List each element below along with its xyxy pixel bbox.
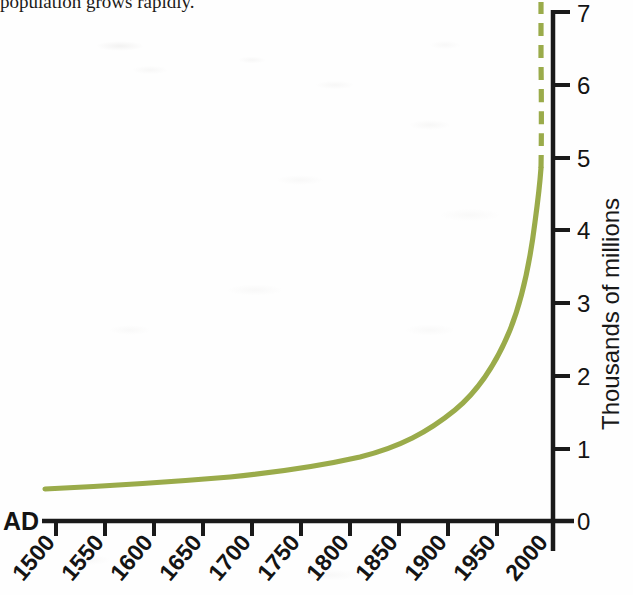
- y-tick-label: 1: [577, 436, 590, 463]
- population-growth-figure: population grows rapidly. AD 1500: [0, 0, 633, 595]
- y-tick-label: 2: [577, 363, 590, 390]
- y-axis-title: Thousands of millions: [597, 198, 624, 430]
- x-axis-tick-labels: 1500 1550 1600 1650 1700 1750 1800 1850 …: [7, 530, 553, 586]
- x-tick-label: 1550: [56, 530, 109, 586]
- y-axis: [553, 10, 570, 551]
- y-tick-label: 3: [577, 290, 590, 317]
- y-axis-tick-labels: 0 1 2 3 4 5 6 7: [577, 0, 590, 535]
- x-tick-label: 1800: [301, 530, 354, 586]
- x-tick-label: 1700: [203, 530, 256, 586]
- x-tick-label: 1650: [154, 530, 207, 586]
- y-tick-label: 4: [577, 217, 590, 244]
- x-tick-label: 1600: [105, 530, 158, 586]
- y-tick-label: 5: [577, 145, 590, 172]
- y-axis-ticks: [553, 12, 570, 449]
- x-tick-label: 1850: [350, 530, 403, 586]
- y-tick-label: 0: [577, 508, 590, 535]
- population-chart-plot: AD 1500 1550 1600 1650 1700 1750 1800 18…: [0, 0, 633, 595]
- x-tick-label: 2000: [500, 530, 553, 586]
- population-curve-solid: [45, 168, 541, 489]
- x-axis: [42, 521, 574, 536]
- x-tick-label: 1500: [7, 530, 60, 586]
- x-axis-origin-label: AD: [3, 507, 39, 535]
- y-tick-label: 7: [577, 0, 590, 27]
- x-tick-label: 1950: [448, 530, 501, 586]
- x-tick-label: 1750: [252, 530, 305, 586]
- x-tick-label: 1900: [399, 530, 452, 586]
- y-tick-label: 6: [577, 72, 590, 99]
